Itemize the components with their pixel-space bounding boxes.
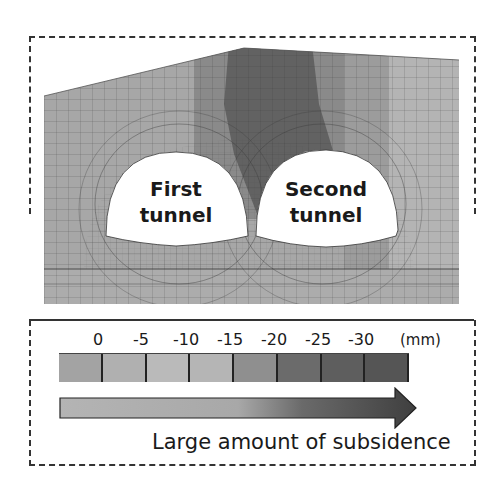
legend-tick-0: 0 <box>93 330 103 349</box>
legend-tick-4: -20 <box>261 330 287 349</box>
legend-swatch-1 <box>59 354 103 382</box>
first-tunnel-line2: tunnel <box>126 202 226 228</box>
subsidence-arrow-icon <box>59 387 417 429</box>
legend-tick-1: -5 <box>133 330 149 349</box>
legend-tick-3: -15 <box>217 330 243 349</box>
first-tunnel-line1: First <box>126 176 226 202</box>
arrow-caption: Large amount of subsidence <box>152 430 451 454</box>
legend-tick-5: -25 <box>305 330 331 349</box>
legend-swatch-4 <box>190 354 234 382</box>
legend-swatch-6 <box>278 354 322 382</box>
legend-swatch-5 <box>234 354 278 382</box>
legend-unit: (mm) <box>400 331 441 349</box>
first-tunnel-label: First tunnel <box>126 176 226 228</box>
legend-tick-2: -10 <box>173 330 199 349</box>
legend-swatch-2 <box>103 354 147 382</box>
legend-swatch-7 <box>322 354 366 382</box>
legend-swatch-3 <box>147 354 191 382</box>
legend-tick-6: -30 <box>348 330 374 349</box>
fem-mesh-contour <box>44 44 459 304</box>
legend-swatch-8 <box>365 354 409 382</box>
legend-color-scale <box>59 353 409 382</box>
panel-divider <box>29 319 474 321</box>
second-tunnel-line2: tunnel <box>271 202 381 228</box>
second-tunnel-label: Second tunnel <box>271 176 381 228</box>
second-tunnel-line1: Second <box>271 176 381 202</box>
